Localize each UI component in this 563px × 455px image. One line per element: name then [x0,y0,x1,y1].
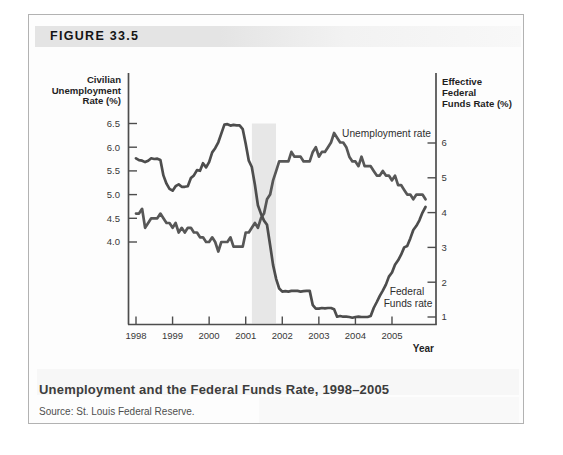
dual-axis-line-chart: 6.56.05.55.04.54.06543211998199920002001… [0,0,563,455]
x-axis-title: Year [413,343,434,354]
x-axis-tick-label: 1999 [162,330,183,341]
left-axis-title: Civilian Unemployment Rate (%) [52,74,122,106]
left-axis-title-line: Civilian [87,74,121,85]
right-axis-title-line: Effective [442,76,482,87]
right-axis-tick-label: 2 [442,277,447,288]
unemployment-line-label: Unemployment rate [342,128,431,139]
x-axis-tick-label: 2003 [308,330,329,341]
svg-text:Federal: Federal [390,286,425,297]
left-axis-tick-label: 6.0 [107,142,120,153]
unemployment-rate-line [136,133,426,252]
x-axis-tick-label: 2000 [199,330,220,341]
left-axis-title-line: Rate (%) [83,95,121,106]
federal-funds-rate-line [136,124,426,318]
left-axis-tick-label: 4.0 [107,236,120,247]
left-axis-tick-label: 5.5 [107,165,120,176]
textbook-page: FIGURE 33.5 Unemployment and the Federal… [0,0,563,455]
left-axis-tick-label: 6.5 [107,118,120,129]
right-axis-title: Effective Federal Funds Rate (%) [442,76,512,109]
svg-text:Funds rate: Funds rate [384,298,433,309]
right-axis-tick-label: 3 [442,242,447,253]
right-axis-tick-label: 6 [442,137,447,148]
left-axis-tick-label: 4.5 [107,213,120,224]
right-axis-tick-label: 4 [442,207,447,218]
right-axis-title-line: Funds Rate (%) [442,98,512,109]
right-axis-tick-label: 5 [442,172,447,183]
x-axis-tick-label: 1998 [125,330,146,341]
right-axis-tick-label: 1 [442,311,447,322]
left-axis-tick-label: 5.0 [107,189,120,200]
x-axis-tick-label: 2002 [272,330,293,341]
x-axis-tick-label: 2001 [235,330,256,341]
x-axis-tick-label: 2004 [345,330,366,341]
data-series [136,124,426,318]
right-axis-title-line: Federal [442,87,476,98]
left-axis-title-line: Unemployment [52,85,122,96]
x-axis-tick-label: 2005 [381,330,402,341]
federal-funds-line-label: Federal Funds rate [384,286,433,309]
